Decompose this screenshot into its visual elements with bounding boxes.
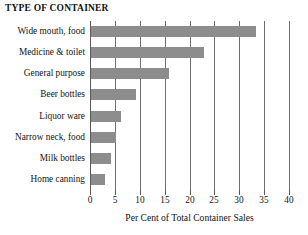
bar-chart-figure: TYPE OF CONTAINER Wide mouth, foodMedici… [0,0,308,235]
category-label: Liquor ware [39,111,85,122]
bar-row[interactable] [91,111,121,122]
tick-label: 35 [259,195,268,205]
category-label: Home canning [31,174,85,185]
bar-row[interactable] [91,47,204,58]
tick-label: 40 [284,195,293,205]
tick-label: 5 [113,195,118,205]
bar-row[interactable] [91,26,256,37]
bar[interactable] [91,89,136,100]
category-label: General purpose [24,68,85,79]
bar[interactable] [91,68,169,79]
bar[interactable] [91,47,204,58]
gridline [214,21,215,190]
category-label: Beer bottles [40,89,85,100]
gridline [264,21,265,190]
bar-row[interactable] [91,153,111,164]
tick-label: 0 [88,195,93,205]
tick-label: 10 [135,195,144,205]
category-label: Milk bottles [40,153,85,164]
bar[interactable] [91,174,105,185]
bar-row[interactable] [91,132,116,143]
x-axis-tick-labels: 0510152025303540 [90,195,289,209]
bar[interactable] [91,26,256,37]
bar-row[interactable] [91,174,105,185]
tick-label: 15 [160,195,169,205]
x-axis-title: Per Cent of Total Container Sales [90,212,289,223]
gridline [239,21,240,190]
plot-area [90,21,289,190]
bar[interactable] [91,132,116,143]
gridline [289,21,290,190]
bar-row[interactable] [91,89,136,100]
category-label: Narrow neck, food [15,132,85,143]
category-axis-labels: Wide mouth, foodMedicine & toiletGeneral… [0,21,85,190]
bar-row[interactable] [91,68,169,79]
chart-title: TYPE OF CONTAINER [5,3,109,13]
bar[interactable] [91,111,121,122]
tick-label: 20 [185,195,194,205]
tick-label: 30 [234,195,243,205]
category-label: Wide mouth, food [17,26,85,37]
bar[interactable] [91,153,111,164]
tick-label: 25 [209,195,218,205]
category-label: Medicine & toilet [19,47,85,58]
